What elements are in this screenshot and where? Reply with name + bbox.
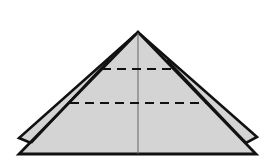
origami-diagram <box>0 0 264 168</box>
